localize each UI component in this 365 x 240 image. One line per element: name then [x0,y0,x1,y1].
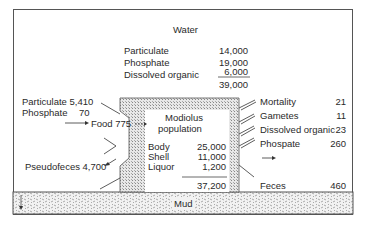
mud-label: Mud [172,198,194,209]
population-subtitle: population [158,123,202,134]
output-pseudofeces: Pseudofeces 4,700 [25,161,106,172]
output-value: 460 [320,180,346,191]
output-label: Mortality [260,96,296,107]
water-title: Water [173,24,198,35]
input-particulate: Particulate 5,410 [22,96,93,107]
water-row-label: Particulate [124,45,169,56]
output-value: 21 [320,96,346,107]
input-phosphate-value: 70 [79,107,90,118]
water-row-label: Dissolved organic [124,69,199,80]
input-phosphate-label: Phosphate [22,107,67,118]
output-label: Gametes [260,110,299,121]
input-food: Food 775 [91,118,131,129]
output-value: 23 [320,124,346,135]
output-value: 260 [320,138,346,149]
output-label: Phospate [260,138,300,149]
output-value: 11 [320,110,346,121]
water-row-value: 6,000 [200,66,248,77]
population-row-label: Liquor [148,161,174,172]
population-title: Modiolus [165,112,203,123]
population-row-value: 1,200 [178,161,226,172]
output-label: Feces [260,180,286,191]
population-total: 37,200 [178,180,226,191]
water-total: 39,000 [200,79,248,90]
water-row-value: 14,000 [200,45,248,56]
water-row-label: Phosphate [124,57,169,68]
